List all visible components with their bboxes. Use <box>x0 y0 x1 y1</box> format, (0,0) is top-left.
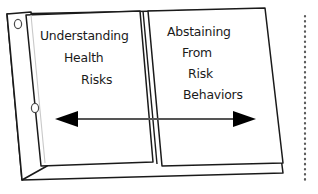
left-page-line-3: Risks <box>81 72 112 87</box>
binder-illustration: Understanding Health Risks Abstaining Fr… <box>0 0 318 194</box>
binder-hole-bottom <box>31 103 38 112</box>
binder-hole-top <box>14 19 21 28</box>
right-page-line-1: Abstaining <box>167 24 231 39</box>
diagram-canvas: Understanding Health Risks Abstaining Fr… <box>0 0 318 194</box>
left-page-line-1: Understanding <box>40 28 129 43</box>
right-page-line-3: Risk <box>188 66 214 81</box>
right-page-line-4: Behaviors <box>183 87 243 102</box>
left-page-line-2: Health <box>64 50 104 65</box>
right-page-line-2: From <box>182 45 212 60</box>
